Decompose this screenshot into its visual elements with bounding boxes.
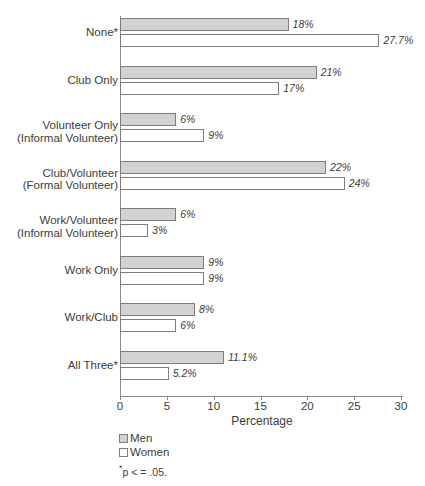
bar-value-label: 18% — [293, 18, 314, 31]
bar-women — [120, 34, 379, 47]
x-tick-label: 10 — [207, 400, 220, 412]
bar-value-label: 9% — [208, 272, 223, 285]
bar-value-label: 17% — [283, 82, 304, 95]
bar-men — [120, 351, 224, 364]
bar-value-label: 8% — [199, 303, 214, 316]
bar-group: All Three*11.1%5.2% — [0, 351, 425, 380]
x-tick-label: 25 — [348, 400, 361, 412]
legend-label-women: Women — [130, 446, 169, 458]
bar-value-label: 11.1% — [228, 351, 257, 364]
bar-value-label: 27.7% — [383, 34, 413, 47]
significance-footnote: *p < = .05. — [119, 463, 167, 478]
x-tick-label: 20 — [301, 400, 314, 412]
category-label: Volunteer Only(Informal Volunteer) — [17, 119, 118, 144]
category-label: Work Only — [65, 264, 118, 277]
bar-women — [120, 224, 148, 237]
category-label: Work/Club — [65, 311, 118, 324]
x-axis-title: Percentage — [231, 414, 292, 428]
x-tick-label: 30 — [395, 400, 408, 412]
bar-men — [120, 208, 176, 221]
legend-label-men: Men — [130, 432, 152, 444]
category-label: All Three* — [68, 359, 118, 372]
category-label: Club/Volunteer(Formal Volunteer) — [23, 167, 118, 192]
category-label: Work/Volunteer(Informal Volunteer) — [17, 214, 118, 239]
bar-value-label: 9% — [208, 129, 223, 142]
bar-value-label: 9% — [208, 256, 223, 269]
bar-men — [120, 18, 289, 31]
legend-swatch-women — [119, 448, 128, 457]
bar-group: Club Only21%17% — [0, 66, 425, 95]
legend-swatch-men — [119, 434, 128, 443]
bar-value-label: 22% — [330, 161, 351, 174]
category-label: Club Only — [68, 74, 119, 87]
bar-women — [120, 367, 169, 380]
bar-women — [120, 177, 345, 190]
bar-women — [120, 82, 279, 95]
bar-group: Club/Volunteer(Formal Volunteer)22%24% — [0, 161, 425, 190]
legend-item-men: Men — [119, 431, 169, 445]
bar-value-label: 5.2% — [173, 367, 197, 380]
x-tick-label: 15 — [254, 400, 267, 412]
bar-group: Work/Volunteer(Informal Volunteer)6%3% — [0, 208, 425, 237]
bar-value-label: 3% — [152, 224, 167, 237]
bar-women — [120, 319, 176, 332]
bar-men — [120, 66, 317, 79]
legend-item-women: Women — [119, 445, 169, 459]
bar-group: Work/Club8%6% — [0, 303, 425, 332]
bar-men — [120, 113, 176, 126]
bar-men — [120, 161, 326, 174]
bar-men — [120, 303, 195, 316]
bar-value-label: 24% — [349, 177, 370, 190]
bar-group: Volunteer Only(Informal Volunteer)6%9% — [0, 113, 425, 142]
bar-value-label: 6% — [180, 113, 195, 126]
bar-women — [120, 272, 204, 285]
bar-men — [120, 256, 204, 269]
bar-value-label: 6% — [180, 208, 195, 221]
bar-value-label: 6% — [180, 319, 195, 332]
bar-women — [120, 129, 204, 142]
footnote-text: p < = .05. — [123, 466, 167, 478]
bar-group: None*18%27.7% — [0, 18, 425, 47]
bar-chart: 051015202530 None*18%27.7%Club Only21%17… — [0, 0, 425, 486]
category-label: None* — [86, 26, 118, 39]
bar-group: Work Only9%9% — [0, 256, 425, 285]
bar-value-label: 21% — [321, 66, 342, 79]
x-tick-label: 5 — [164, 400, 170, 412]
x-axis-line — [120, 396, 403, 397]
x-tick-label: 0 — [117, 400, 123, 412]
legend: Men Women — [119, 431, 169, 459]
